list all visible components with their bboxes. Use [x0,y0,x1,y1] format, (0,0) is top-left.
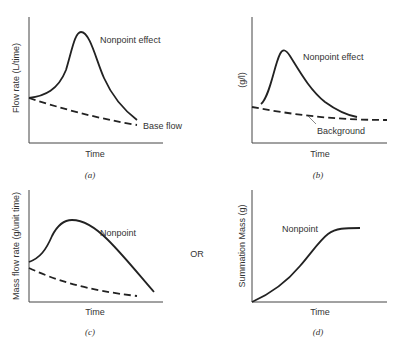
panel-c-ylabel: Mass flow rate (g/unit time) [11,192,21,300]
panel-d-caption: (d) [313,327,324,337]
panel-b-leader-line [308,116,316,124]
panel-a-xlabel: Time [85,149,105,159]
panel-a: Nonpoint effect Base flow Time Flow rate… [11,17,183,180]
panel-c-axes [29,190,163,302]
panel-b-dashed-label: Background [317,126,365,136]
panel-a-caption: (a) [85,170,96,180]
panel-b-xlabel: Time [310,149,330,159]
panel-a-ylabel: Flow rate (L/time) [11,43,21,113]
panel-a-base-flow-curve [29,98,137,125]
panel-a-curve-label: Nonpoint effect [100,35,161,45]
panel-d-cumulative-curve [252,228,360,302]
panel-a-nonpoint-curve [29,32,137,120]
panel-c: Nonpoint Time Mass flow rate (g/unit tim… [11,190,163,337]
panel-c-caption: (c) [85,327,95,337]
panel-d-curve-label: Nonpoint [282,224,319,234]
panel-d-ylabel: Summation Mass (g) [237,204,247,287]
panel-c-base-curve [29,268,137,296]
panel-b-curve-label: Nonpoint effect [303,52,364,62]
panel-a-dashed-label: Base flow [143,121,183,131]
panel-b-ylabel: (g/l) [237,72,247,88]
panel-d-axes [252,190,387,302]
panel-c-curve-label: Nonpoint [100,228,137,238]
or-connector: OR [190,249,204,259]
panel-b: Nonpoint effect Background Time (g/l) (b… [237,17,387,180]
panel-b-caption: (b) [313,170,324,180]
nonpoint-pollution-diagram: Nonpoint effect Base flow Time Flow rate… [0,0,397,348]
panel-d: Nonpoint Time Summation Mass (g) (d) [237,190,387,337]
panel-d-xlabel: Time [310,307,330,317]
panel-b-background-curve [252,107,387,120]
panel-c-xlabel: Time [85,307,105,317]
